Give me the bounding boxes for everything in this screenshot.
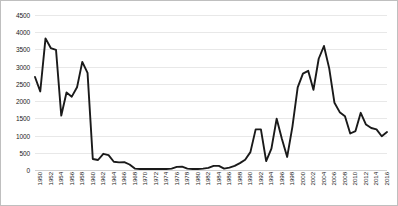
x-tick-label-1998: 1998 [289,172,296,185]
x-tick-label-1988: 1988 [237,172,244,185]
y-tick-label-3000: 3000 [16,63,30,70]
x-tick-label-2010: 2010 [352,172,359,185]
y-axis-tick-labels: 050010001500200025003000350040004500 [7,15,33,170]
x-tick-label-1972: 1972 [153,172,160,185]
x-tick-label-1982: 1982 [205,172,212,185]
x-tick-label-1992: 1992 [258,172,265,185]
x-tick-label-2016: 2016 [384,172,391,185]
x-tick-label-2000: 2000 [300,172,307,185]
y-tick-label-3500: 3500 [16,46,30,53]
x-tick-label-1966: 1966 [121,172,128,185]
x-tick-label-1986: 1986 [226,172,233,185]
x-tick-label-1968: 1968 [132,172,139,185]
chart-plot-wrapper: 050010001500200025003000350040004500 195… [7,6,391,200]
y-tick-label-2500: 2500 [16,80,30,87]
x-tick-label-1950: 1950 [37,172,44,185]
x-tick-label-1994: 1994 [268,172,275,185]
x-tick-label-1952: 1952 [48,172,55,185]
y-tick-label-2000: 2000 [16,98,30,105]
x-tick-label-1964: 1964 [111,172,118,185]
x-tick-label-1990: 1990 [247,172,254,185]
y-tick-label-4000: 4000 [16,29,30,36]
x-tick-label-1956: 1956 [69,172,76,185]
series-svg [35,15,387,170]
x-tick-label-1970: 1970 [142,172,149,185]
gridline-0 [35,170,387,171]
x-tick-label-1996: 1996 [279,172,286,185]
y-tick-label-0: 0 [26,167,30,174]
x-tick-label-1954: 1954 [58,172,65,185]
x-tick-label-1960: 1960 [90,172,97,185]
plot-area [35,15,387,170]
y-tick-label-1000: 1000 [16,132,30,139]
chart-container: 050010001500200025003000350040004500 195… [0,0,398,206]
x-tick-label-1974: 1974 [163,172,170,185]
x-tick-label-2008: 2008 [342,172,349,185]
x-tick-label-1984: 1984 [216,172,223,185]
y-tick-label-1500: 1500 [16,115,30,122]
line-series-path [35,38,387,169]
x-tick-label-1958: 1958 [79,172,86,185]
x-tick-label-2006: 2006 [331,172,338,185]
x-tick-label-1978: 1978 [184,172,191,185]
y-tick-label-4500: 4500 [16,12,30,19]
x-axis-tick-labels: 1950195219541956195819601962196419661968… [35,172,387,202]
x-tick-label-1962: 1962 [100,172,107,185]
x-tick-label-2014: 2014 [373,172,380,185]
x-tick-label-1980: 1980 [195,172,202,185]
x-tick-label-1976: 1976 [174,172,181,185]
x-tick-label-2012: 2012 [363,172,370,185]
x-tick-label-2002: 2002 [310,172,317,185]
y-tick-label-500: 500 [19,149,30,156]
x-tick-label-2004: 2004 [321,172,328,185]
